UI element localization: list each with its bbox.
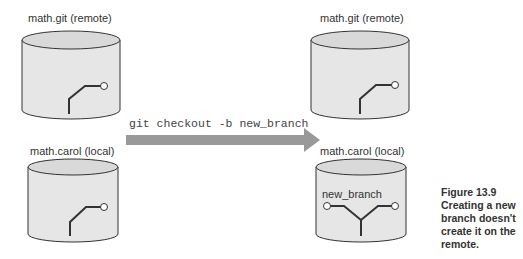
- left-remote-repo-cylinder: [22, 31, 120, 119]
- right-local-repo-cylinder: [316, 159, 406, 242]
- caption-text: Creating a new branch doesn't create it …: [441, 199, 523, 251]
- new-branch-label: new_branch: [322, 188, 382, 200]
- right-remote-repo-cylinder: [311, 31, 409, 119]
- caption-title: Figure 13.9: [441, 186, 523, 199]
- arrow-right-icon: [126, 128, 320, 152]
- figure-caption: Figure 13.9 Creating a new branch doesn'…: [441, 186, 523, 251]
- left-local-repo-cylinder: [28, 159, 118, 242]
